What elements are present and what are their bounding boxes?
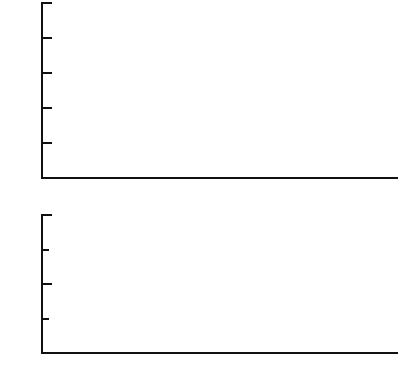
figure-sediment-grain-size	[0, 0, 409, 391]
chart-panel-median-grain-size	[0, 195, 409, 391]
x-axis-line-top	[41, 177, 398, 179]
x-axis-month-labels	[0, 356, 409, 372]
plot-area-bottom	[43, 214, 397, 353]
chart-panel-percent-finer	[0, 0, 409, 195]
plot-area-top	[43, 2, 397, 177]
